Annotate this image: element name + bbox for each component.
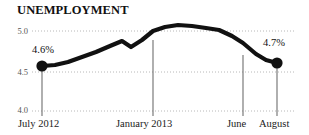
y-tick-label-5-0: 5.0	[8, 27, 28, 36]
chart-plot-area	[0, 0, 309, 135]
data-label-start-4-6-percent: 4.6%	[32, 44, 54, 56]
y-tick-label-4-0: 4.0	[8, 106, 28, 115]
x-tick-label-january-2013: January 2013	[116, 118, 172, 130]
x-tick-label-june: June	[227, 118, 246, 130]
marker-start-july-2012	[36, 60, 47, 71]
y-tick-label-4-5: 4.5	[8, 68, 28, 77]
marker-end-august	[271, 57, 282, 68]
unemployment-chart: UNEMPLOYMENT 5.0 4.5 4.0 July 2012 Janua…	[0, 0, 309, 135]
data-label-end-4-7-percent: 4.7%	[263, 37, 285, 49]
gridlines	[32, 31, 296, 111]
x-tick-lines	[42, 40, 277, 116]
x-tick-label-august: August	[259, 118, 289, 130]
x-tick-label-july-2012: July 2012	[18, 118, 59, 130]
